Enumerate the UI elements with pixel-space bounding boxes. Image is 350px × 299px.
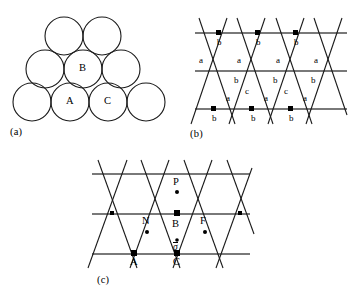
site-label-a: A	[130, 257, 138, 268]
panel-a-circle-packing: B A C (a)	[0, 0, 175, 150]
lattice-vertex	[238, 211, 242, 215]
lattice-vertex	[211, 106, 216, 111]
packing-circle	[127, 83, 165, 121]
lattice-line-diagonal	[216, 168, 252, 268]
site-marker-dot-n	[145, 230, 149, 234]
packing-circle	[45, 17, 83, 55]
lattice-vertex	[216, 30, 221, 35]
panel-b-lattice-labeled: b b b a a a a b b b c c a a a b b b (b)	[175, 0, 350, 150]
sigma-symbol: σ	[173, 242, 178, 253]
lattice-vertex	[110, 211, 114, 215]
circle-label-a: A	[66, 96, 74, 107]
site-marker-dot-p	[175, 190, 179, 194]
packing-circle	[102, 50, 140, 88]
site-label-c: C	[173, 257, 180, 268]
site-label-n: N	[142, 216, 150, 227]
lattice-label-a: a	[199, 56, 203, 65]
displacement-vector-label: σ	[173, 242, 178, 253]
lattice-vertex	[255, 30, 260, 35]
panel-c-lattice-sites: P N B F A C σ (c)	[80, 152, 280, 299]
panel-a-caption: (a)	[10, 126, 22, 137]
site-label-f: F	[200, 216, 206, 227]
lattice-label-a: a	[226, 94, 230, 103]
site-label-b: B	[172, 219, 179, 230]
lattice-label-a: a	[276, 56, 280, 65]
lattice-vertex	[249, 106, 254, 111]
lattice-label-b: b	[289, 114, 294, 123]
lattice-label-b: b	[273, 76, 278, 85]
lattice-label-a: a	[264, 94, 268, 103]
panel-c-drawing	[80, 152, 280, 299]
panel-b-caption: (b)	[190, 128, 203, 139]
lattice-label-b: b	[294, 38, 299, 47]
lattice-label-c: c	[284, 87, 288, 96]
packing-circle	[83, 17, 121, 55]
lattice-label-a: a	[314, 56, 318, 65]
circle-label-b: B	[79, 63, 86, 74]
lattice-label-b: b	[212, 114, 217, 123]
lattice-label-a: a	[237, 56, 241, 65]
site-marker-dot-f	[203, 230, 207, 234]
lattice-label-c: c	[245, 87, 249, 96]
figure-root: B A C (a)	[0, 0, 350, 299]
lattice-label-b: b	[217, 38, 222, 47]
lattice-label-b: b	[234, 76, 239, 85]
packing-circle	[13, 83, 51, 121]
panel-c-caption: (c)	[97, 274, 109, 285]
lattice-vertex	[293, 30, 298, 35]
packing-circle	[26, 50, 64, 88]
site-marker-square-b	[174, 210, 180, 216]
circle-group	[13, 17, 165, 121]
site-label-p: P	[173, 177, 179, 188]
lattice-label-b: b	[251, 114, 256, 123]
lattice-vertex	[288, 106, 293, 111]
lattice-label-b: b	[311, 76, 316, 85]
lattice-line-diagonal	[227, 160, 254, 234]
lattice-label-a: a	[303, 94, 307, 103]
panel-a-drawing	[0, 0, 175, 150]
lattice-label-b: b	[256, 38, 261, 47]
circle-label-c: C	[104, 96, 111, 107]
